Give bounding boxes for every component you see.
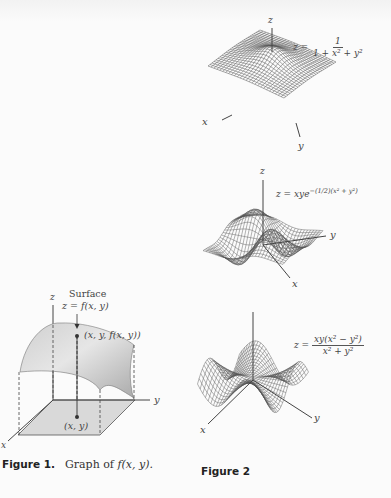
figure1-caption-label: Figure 1. [2,458,55,470]
figure1-caption-prefix: Graph of [65,458,117,471]
surface-equation: z = f(x, y) [62,300,109,311]
figure1-caption-func: f(x, y). [117,458,153,471]
surface-point [75,334,79,338]
figure1-y-label: y [154,394,160,405]
figure1-graphic [0,0,391,498]
base-point [75,415,79,419]
base-point-label: (x, y) [64,420,88,431]
figure1-caption: Figure 1.Graph of f(x, y). [2,458,153,471]
figure1-caption-text: Graph of f(x, y). [65,458,153,471]
figure1-x-label: x [1,440,6,450]
surface-label: Surface [69,288,106,299]
figure1-z-label: z [50,292,55,302]
surface-point-label: (x, y, f(x, y)) [84,329,141,340]
